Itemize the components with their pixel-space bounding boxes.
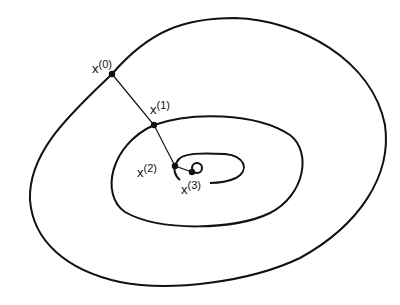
label-x3: x(3) <box>181 180 201 196</box>
inner-contour <box>174 153 244 183</box>
label-x1: x(1) <box>150 100 170 116</box>
contour-plot <box>0 0 400 305</box>
label-x0: x(0) <box>92 59 112 75</box>
outer-contour <box>30 18 386 286</box>
diagram-canvas: x(0) x(1) x(2) x(3) <box>0 0 400 305</box>
point-x2 <box>172 163 178 169</box>
point-x3 <box>189 169 195 175</box>
point-x1 <box>151 122 157 128</box>
label-x2: x(2) <box>137 163 157 179</box>
